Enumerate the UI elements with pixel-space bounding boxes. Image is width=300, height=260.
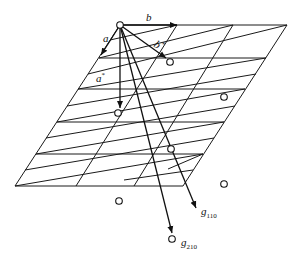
diagonal-lines: [15, 25, 287, 186]
origin-point: [117, 22, 124, 29]
label-a: a: [103, 32, 109, 44]
label-g210: g210: [181, 236, 198, 251]
label-g110: g110: [201, 205, 217, 220]
label-b: b: [146, 11, 152, 23]
lattice-points: [115, 22, 228, 243]
label-a-star: a*: [96, 71, 106, 84]
lattice-diagram: b a a* b* g110 g210: [0, 0, 300, 260]
